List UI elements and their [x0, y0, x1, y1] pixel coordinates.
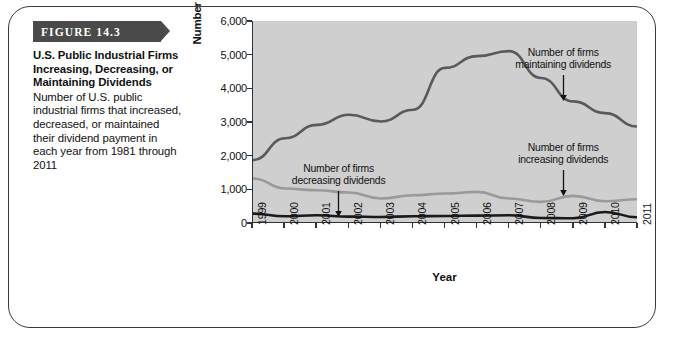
chart-annotation: Number of firmsmaintaining dividends: [508, 47, 618, 71]
y-tick-label: 3,000: [220, 116, 247, 128]
x-tick-label: 2009: [577, 202, 589, 225]
x-tick-mark: [412, 223, 413, 228]
y-tick-label: 4,000: [220, 82, 247, 94]
annotation-line-1: Number of firms: [284, 163, 394, 175]
y-tick-mark: [247, 54, 252, 55]
figure-caption-column: FIGURE 14.3 U.S. Public Industrial Firms…: [33, 21, 183, 251]
annotation-line-2: increasing dividends: [508, 154, 618, 166]
x-tick-label: 2002: [352, 202, 364, 225]
x-tick-mark: [283, 223, 284, 228]
annotation-line-2: maintaining dividends: [508, 59, 618, 71]
figure-description: Number of U.S. public industrial firms t…: [33, 91, 183, 173]
x-tick-mark: [315, 223, 316, 228]
chart-annotation: Number of firmsdecreasing dividends: [284, 163, 394, 187]
x-tick-label: 1999: [256, 202, 268, 225]
x-tick-label: 2010: [609, 202, 621, 225]
chart-annotation: Number of firmsincreasing dividends: [508, 142, 618, 166]
x-tick-mark: [251, 223, 252, 228]
y-axis-tick-labels: 01,0002,0003,0004,0005,0006,000: [207, 21, 247, 223]
y-tick-mark: [247, 20, 252, 21]
y-tick-label: 6,000: [220, 15, 247, 27]
annotation-arrow-icon: [334, 191, 343, 217]
annotation-line-1: Number of firms: [508, 142, 618, 154]
x-tick-mark: [508, 223, 509, 228]
y-tick-label: 2,000: [220, 150, 247, 162]
x-tick-label: 2007: [513, 202, 525, 225]
x-tick-label: 2006: [481, 202, 493, 225]
x-tick-label: 2004: [416, 202, 428, 225]
figure-title: U.S. Public Industrial Firms Increasing,…: [33, 49, 183, 90]
x-tick-mark: [380, 223, 381, 228]
annotation-line-2: decreasing dividends: [284, 175, 394, 187]
annotation-arrow-icon: [559, 170, 568, 196]
x-axis-tick-labels: 1999200020012002200320042005200620072008…: [252, 225, 637, 271]
x-tick-mark: [348, 223, 349, 228]
y-tick-mark: [247, 121, 252, 122]
chart-area: Number of Firms 01,0002,0003,0004,0005,0…: [195, 21, 647, 291]
y-tick-mark: [247, 88, 252, 89]
x-tick-label: 2005: [449, 202, 461, 225]
y-tick-label: 5,000: [220, 49, 247, 61]
x-tick-mark: [540, 223, 541, 228]
x-tick-mark: [572, 223, 573, 228]
y-tick-mark: [247, 189, 252, 190]
annotation-line-1: Number of firms: [508, 47, 618, 59]
chevron-right-icon: [161, 21, 170, 41]
x-tick-mark: [636, 223, 637, 228]
x-tick-label: 2008: [545, 202, 557, 225]
x-tick-label: 2011: [641, 203, 653, 225]
y-tick-label: 1,000: [220, 183, 247, 195]
x-tick-label: 2001: [320, 202, 332, 225]
x-tick-mark: [444, 223, 445, 228]
figure-number-label: FIGURE 14.3: [41, 26, 121, 38]
x-tick-label: 2000: [288, 202, 300, 225]
y-tick-mark: [247, 155, 252, 156]
x-axis-title: Year: [252, 271, 637, 283]
x-tick-mark: [476, 223, 477, 228]
x-tick-label: 2003: [384, 202, 396, 225]
x-tick-mark: [604, 223, 605, 228]
figure-card: FIGURE 14.3 U.S. Public Industrial Firms…: [8, 6, 656, 328]
annotation-arrow-icon: [559, 75, 568, 101]
figure-number-banner: FIGURE 14.3: [33, 21, 161, 42]
y-axis-title: Number of Firms: [191, 0, 203, 55]
